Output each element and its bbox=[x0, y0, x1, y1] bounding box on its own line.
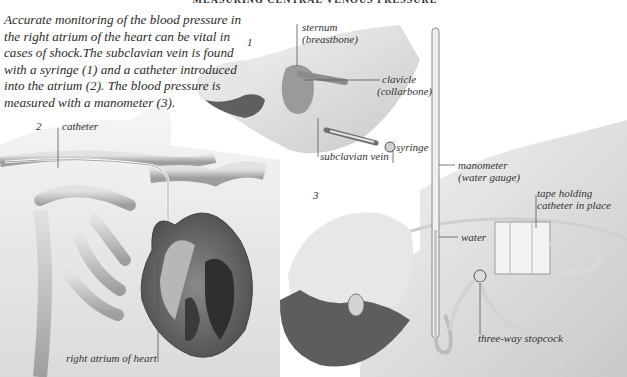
label-water: water bbox=[461, 231, 486, 243]
label-tape-alt: catheter in place bbox=[537, 199, 611, 211]
caption-text: Accurate monitoring of the blood pressur… bbox=[4, 12, 244, 112]
label-three-way-stopcock: three-way stopcock bbox=[478, 332, 563, 344]
label-tape: tape holding bbox=[537, 187, 592, 199]
label-manometer: manometer bbox=[458, 159, 508, 171]
label-manometer-alt: (water gauge) bbox=[458, 171, 520, 183]
label-clavicle-alt: (collarbone) bbox=[377, 85, 432, 97]
label-catheter: catheter bbox=[62, 120, 98, 132]
figure-3-number: 3 bbox=[313, 189, 319, 201]
figure-2-number: 2 bbox=[36, 120, 42, 132]
label-sternum-alt: (breastbone) bbox=[302, 33, 358, 45]
label-subclavian-vein: subclavian vein bbox=[320, 150, 389, 162]
label-sternum: sternum bbox=[302, 21, 337, 33]
label-syringe: syringe bbox=[396, 141, 428, 153]
figure-2-illustration bbox=[0, 98, 280, 377]
label-clavicle: clavicle bbox=[382, 73, 416, 85]
figure-1-number: 1 bbox=[247, 36, 253, 48]
label-right-atrium: right atrium of heart bbox=[66, 352, 157, 364]
